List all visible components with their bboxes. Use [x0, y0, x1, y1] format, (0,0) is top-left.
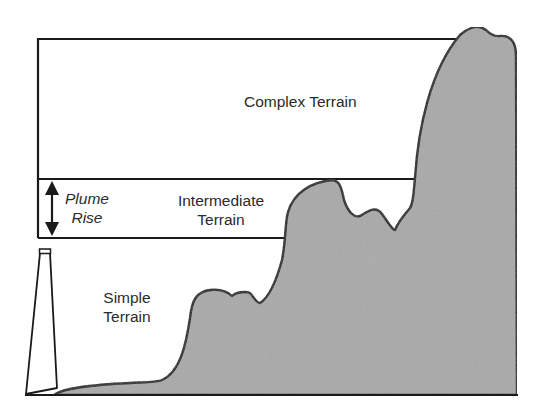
terrain-profile [54, 27, 517, 395]
simple-terrain-label: Simple Terrain [96, 288, 158, 326]
simple-terrain-label-line2: Terrain [96, 307, 158, 326]
intermediate-terrain-label: Intermediate Terrain [158, 191, 284, 229]
stack [26, 249, 57, 394]
plume-rise-label-line1: Plume [62, 189, 112, 208]
intermediate-terrain-label-line2: Terrain [158, 210, 284, 229]
plume-rise-label: Plume Rise [62, 189, 112, 227]
complex-terrain-label: Complex Terrain [244, 92, 357, 111]
intermediate-terrain-label-line1: Intermediate [158, 191, 284, 210]
simple-terrain-label-line1: Simple [96, 288, 158, 307]
plume-rise-arrow [45, 181, 59, 236]
plume-rise-label-line2: Rise [62, 208, 112, 227]
